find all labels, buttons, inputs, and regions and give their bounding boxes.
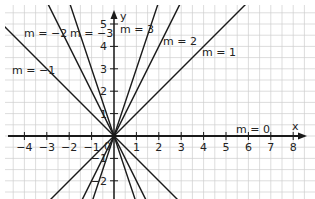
label-m-1: m = 1: [202, 46, 236, 59]
y-tick-label: −1: [91, 152, 107, 165]
y-tick-label: 1: [100, 108, 107, 121]
label-m-0: m = 0: [236, 123, 270, 136]
x-tick-label: −4: [16, 141, 32, 154]
tick-labels: −4−3−2−112345678−2−112345: [16, 18, 296, 188]
x-tick-label: 7: [267, 141, 274, 154]
label-m-neg3: m = −3: [70, 27, 113, 40]
origin-label: 0: [104, 140, 111, 153]
label-m-neg1: m = −1: [12, 64, 55, 77]
y-tick-label: 3: [100, 63, 107, 76]
line-labels: m = −1 m = −2 m = −3 m = 3 m = 2 m = 1 m…: [12, 10, 299, 153]
x-tick-label: 8: [290, 141, 297, 154]
x-tick-label: −2: [61, 141, 77, 154]
x-axis-label: x: [292, 120, 299, 133]
x-tick-label: 6: [245, 141, 252, 154]
y-tick-label: −2: [91, 175, 107, 188]
label-m-2: m = 2: [163, 35, 197, 48]
x-tick-label: 1: [133, 141, 140, 154]
plot-canvas: −4−3−2−112345678−2−112345 m = −1 m = −2 …: [0, 0, 315, 199]
label-m-neg2: m = −2: [24, 27, 67, 40]
y-tick-label: 4: [100, 40, 107, 53]
x-tick-label: 2: [155, 141, 162, 154]
coordinate-plot: −4−3−2−112345678−2−112345 m = −1 m = −2 …: [0, 0, 315, 199]
x-tick-label: 5: [223, 141, 230, 154]
x-axis-arrow-icon: [298, 133, 307, 140]
x-tick-label: 3: [178, 141, 185, 154]
y-tick-label: 2: [100, 85, 107, 98]
x-tick-label: −3: [39, 141, 55, 154]
x-tick-label: 4: [200, 141, 207, 154]
y-axis-label: y: [120, 10, 127, 23]
label-m-3: m = 3: [120, 23, 154, 36]
y-axis-arrow-icon: [111, 10, 118, 19]
